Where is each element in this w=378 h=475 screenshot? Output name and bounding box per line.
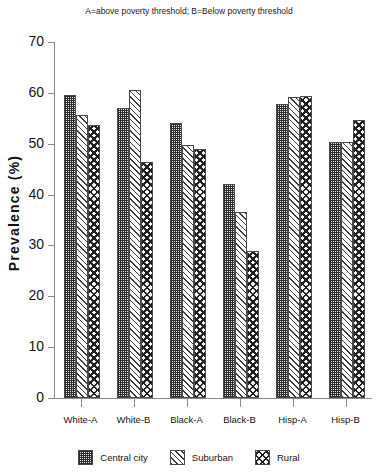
- x-tick-label: White-A: [64, 414, 98, 425]
- x-tick: [346, 398, 347, 407]
- y-tick-label: 30: [4, 236, 44, 252]
- plot-area: 706050403020100 White-AWhite-BBlack-ABla…: [54, 42, 372, 398]
- x-tick-label: Hisp-B: [331, 414, 360, 425]
- y-tick-label: 10: [4, 338, 44, 354]
- bar-chart: A=above poverty threshold; B=Below pover…: [0, 0, 378, 475]
- bar: [300, 96, 312, 398]
- bar: [235, 212, 247, 398]
- legend-swatch: [78, 450, 93, 465]
- x-tick: [187, 398, 188, 407]
- legend-label: Rural: [277, 452, 300, 463]
- legend-label: Central city: [100, 452, 148, 463]
- y-tick: 10: [48, 347, 54, 348]
- y-tick: 30: [48, 245, 54, 246]
- bar: [76, 115, 88, 398]
- y-tick: 70: [48, 42, 54, 43]
- x-tick-label: Black-B: [223, 414, 256, 425]
- bar: [353, 120, 365, 398]
- y-tick: 40: [48, 195, 54, 196]
- bar: [88, 125, 100, 398]
- x-tick: [240, 398, 241, 407]
- x-tick: [293, 398, 294, 407]
- y-tick-label: 60: [4, 84, 44, 100]
- legend-swatch: [255, 450, 270, 465]
- x-axis-line: [54, 398, 372, 399]
- bar: [276, 104, 288, 398]
- y-tick: 50: [48, 144, 54, 145]
- y-tick-label: 40: [4, 186, 44, 202]
- bar: [129, 90, 141, 398]
- bar: [223, 184, 235, 398]
- x-tick-label: Hisp-A: [278, 414, 307, 425]
- bar: [170, 123, 182, 398]
- x-tick: [81, 398, 82, 407]
- x-tick-label: White-B: [117, 414, 151, 425]
- legend-item: Rural: [255, 450, 300, 465]
- y-tick-label: 0: [4, 389, 44, 405]
- y-tick: 60: [48, 93, 54, 94]
- y-tick-label: 20: [4, 287, 44, 303]
- y-axis-label: Prevalence (%): [6, 133, 22, 293]
- y-axis-line: [54, 42, 55, 398]
- y-tick: 0: [48, 398, 54, 399]
- chart-title: A=above poverty threshold; B=Below pover…: [0, 6, 378, 16]
- bar: [247, 251, 259, 398]
- y-tick: 20: [48, 296, 54, 297]
- bar: [141, 162, 153, 398]
- chart-legend: Central citySuburbanRural: [0, 445, 378, 469]
- legend-label: Suburban: [192, 452, 233, 463]
- bar: [288, 97, 300, 398]
- bar: [329, 142, 341, 398]
- bar: [341, 142, 353, 398]
- bar: [64, 95, 76, 398]
- legend-item: Central city: [78, 450, 148, 465]
- bar: [194, 149, 206, 398]
- y-tick-label: 50: [4, 135, 44, 151]
- legend-swatch: [170, 450, 185, 465]
- bar: [117, 108, 129, 398]
- x-tick-label: Black-A: [170, 414, 203, 425]
- y-tick-label: 70: [4, 33, 44, 49]
- bar: [182, 145, 194, 398]
- legend-item: Suburban: [170, 450, 233, 465]
- x-tick: [134, 398, 135, 407]
